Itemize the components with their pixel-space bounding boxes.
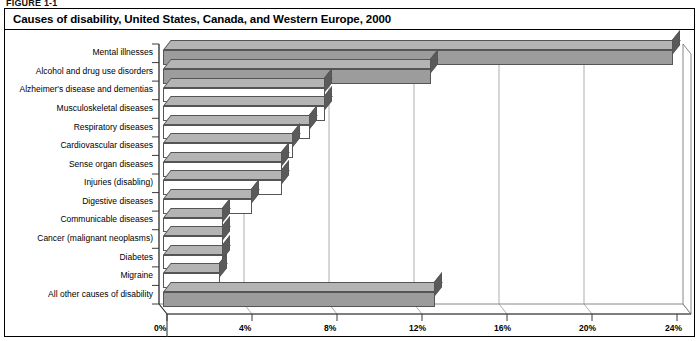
category-label: Sense organ diseases	[69, 160, 153, 169]
figure-frame: Causes of disability, United States, Can…	[4, 8, 695, 337]
x-tick-label: 20%	[579, 323, 596, 333]
bar-top-face	[163, 282, 443, 292]
bar-side-face	[672, 30, 680, 55]
category-label: Mental illnesses	[93, 48, 153, 57]
figure-caption: FIGURE 1-1	[6, 0, 58, 7]
bar-top-face	[163, 133, 300, 143]
x-tick-label: 8%	[324, 323, 336, 333]
category-label: Migraine	[120, 271, 153, 280]
category-label: Communicable diseases	[60, 215, 153, 224]
category-label: Injuries (disabling)	[84, 178, 153, 187]
bar-top-face	[163, 226, 230, 236]
category-label: Cancer (malignant neoplasms)	[37, 234, 153, 243]
category-label: Digestive diseases	[82, 197, 153, 206]
x-tick-label: 4%	[239, 323, 251, 333]
x-tick-label: 16%	[494, 323, 511, 333]
bar-top-face	[163, 245, 230, 255]
category-label: Diabetes	[119, 253, 153, 262]
category-label: Alcohol and drug use disorders	[36, 67, 153, 76]
x-tick-label: 24%	[665, 323, 682, 333]
bar-top-face	[163, 152, 290, 162]
x-tick-label: 0%	[154, 323, 166, 333]
category-label: Alzheimer's disease and dementias	[20, 85, 153, 94]
category-label: Respiratory diseases	[74, 123, 153, 132]
bar-top-face	[163, 189, 260, 199]
category-label: Musculoskeletal diseases	[57, 104, 153, 113]
bar-top-face	[163, 115, 317, 125]
chart-title-bar: Causes of disability, United States, Can…	[5, 9, 694, 30]
bar-top-face	[163, 78, 332, 88]
bar-side-face	[434, 272, 442, 297]
bar-all-other-causes-of-disability	[163, 292, 435, 307]
bar-top-face	[163, 59, 439, 69]
page-title: Causes of disability, United States, Can…	[13, 13, 391, 25]
x-tick-label: 12%	[409, 323, 426, 333]
bar-top-face	[163, 170, 290, 180]
bar-top-face	[163, 208, 230, 218]
category-label: Cardiovascular diseases	[60, 141, 153, 150]
category-label: All other causes of disability	[48, 290, 153, 299]
category-axis-labels: Mental illnessesAlcohol and drug use dis…	[5, 30, 157, 298]
bar-front-face	[163, 292, 435, 307]
bar-top-face	[163, 96, 332, 106]
chart-plot-area: Mental illnessesAlcohol and drug use dis…	[5, 30, 696, 337]
bar-top-face	[163, 40, 681, 50]
